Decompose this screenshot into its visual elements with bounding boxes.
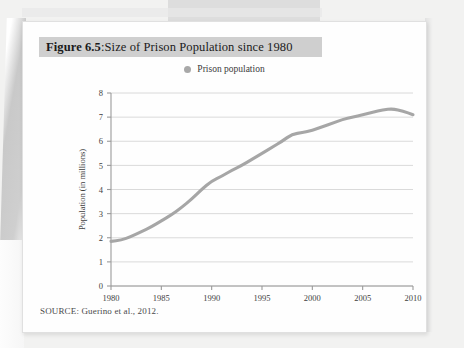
chart-y-axis	[107, 93, 111, 286]
figure-page: Figure 6.5: Size of Prison Population si…	[22, 21, 427, 333]
chart-y-tick-labels: 012345678	[99, 88, 104, 291]
chart-gridlines	[111, 93, 413, 286]
chart-plot-area: 012345678 1980198519901995200020052010 P…	[23, 22, 426, 332]
svg-text:2010: 2010	[405, 293, 422, 303]
svg-text:2005: 2005	[354, 293, 371, 303]
svg-text:7: 7	[99, 112, 103, 122]
svg-text:1: 1	[99, 257, 103, 267]
svg-text:5: 5	[99, 161, 103, 171]
svg-text:0: 0	[99, 281, 103, 291]
line-chart-svg: 012345678 1980198519901995200020052010 P…	[23, 22, 426, 332]
chart-y-axis-label: Population (in millions)	[77, 149, 87, 230]
svg-text:1985: 1985	[153, 293, 170, 303]
svg-text:1990: 1990	[203, 293, 220, 303]
scan-artifact-top-strip	[22, 8, 322, 17]
scan-artifact-left-lower	[0, 240, 24, 348]
chart-x-axis	[111, 286, 413, 290]
svg-text:1980: 1980	[103, 293, 120, 303]
svg-text:6: 6	[99, 136, 103, 146]
svg-text:1995: 1995	[254, 293, 271, 303]
chart-data-line-prison-population	[111, 109, 413, 241]
svg-text:4: 4	[99, 185, 104, 195]
svg-text:8: 8	[99, 88, 103, 98]
svg-text:Population (in millions): Population (in millions)	[77, 149, 87, 230]
svg-text:2: 2	[99, 233, 103, 243]
chart-x-tick-labels: 1980198519901995200020052010	[103, 293, 422, 303]
svg-text:3: 3	[99, 209, 103, 219]
figure-source-note: SOURCE: Guerino et al., 2012.	[40, 306, 159, 316]
svg-text:2000: 2000	[304, 293, 321, 303]
